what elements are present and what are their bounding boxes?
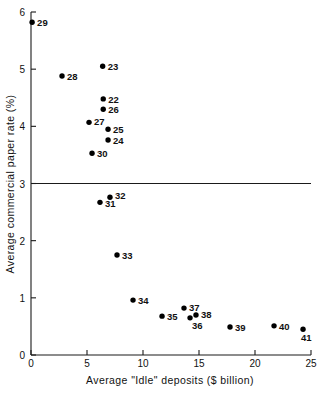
x-axis-title: Average "Idle" deposits ($ billion): [86, 374, 254, 386]
data-point-label: 27: [94, 116, 105, 127]
y-tick-label: 6: [19, 7, 25, 18]
x-tick-label: 5: [84, 358, 90, 369]
data-point-marker: [97, 200, 102, 205]
data-point-group: 2923282226272524303231333435373638394041: [29, 17, 312, 343]
y-axis-title: Average commercial paper rate (%): [4, 95, 16, 274]
x-tick-label: 25: [305, 358, 317, 369]
data-point-marker: [100, 64, 105, 69]
data-point-label: 31: [105, 198, 116, 209]
data-point-label: 39: [235, 322, 246, 333]
data-point-marker: [105, 137, 110, 142]
data-point-label: 41: [301, 332, 312, 343]
y-tick-label: 1: [19, 293, 25, 304]
data-point-marker: [59, 73, 64, 78]
y-axis-ticks: 0123456: [19, 7, 36, 361]
data-point-label: 35: [167, 311, 178, 322]
data-point-marker: [89, 151, 94, 156]
data-point-label: 29: [37, 17, 48, 28]
data-point-label: 30: [97, 148, 108, 159]
y-tick-label: 0: [19, 350, 25, 361]
plot-svg: 0510152025 0123456 292328222627252430323…: [0, 0, 321, 396]
scatter-chart: 0510152025 0123456 292328222627252430323…: [0, 0, 321, 396]
data-point-marker: [271, 323, 276, 328]
data-point-marker: [105, 126, 110, 131]
plot-frame: [31, 12, 311, 355]
x-tick-label: 20: [249, 358, 261, 369]
data-point-marker: [29, 20, 34, 25]
data-point-marker: [181, 305, 186, 310]
data-point-marker: [114, 252, 119, 257]
data-point-marker: [86, 120, 91, 125]
data-point-label: 36: [192, 320, 203, 331]
data-point-marker: [227, 324, 232, 329]
data-point-label: 28: [67, 71, 78, 82]
x-tick-label: 10: [137, 358, 149, 369]
data-point-label: 37: [189, 302, 200, 313]
y-tick-label: 5: [19, 64, 25, 75]
data-point-marker: [159, 313, 164, 318]
y-tick-label: 3: [19, 179, 25, 190]
y-tick-label: 4: [19, 121, 25, 132]
data-point-label: 23: [108, 61, 119, 72]
data-point-marker: [193, 312, 198, 317]
x-axis-ticks: 0510152025: [28, 350, 317, 369]
x-tick-label: 0: [28, 358, 34, 369]
data-point-label: 34: [138, 295, 149, 306]
data-point-label: 32: [115, 190, 126, 201]
data-point-marker: [101, 96, 106, 101]
x-tick-label: 15: [193, 358, 205, 369]
y-tick-label: 2: [19, 236, 25, 247]
data-point-marker: [130, 297, 135, 302]
data-point-label: 24: [113, 135, 124, 146]
data-point-label: 40: [279, 321, 290, 332]
data-point-label: 38: [201, 309, 212, 320]
data-point-label: 25: [113, 124, 124, 135]
data-point-label: 33: [122, 250, 133, 261]
data-point-label: 26: [108, 104, 119, 115]
data-point-marker: [300, 327, 305, 332]
data-point-marker: [101, 106, 106, 111]
